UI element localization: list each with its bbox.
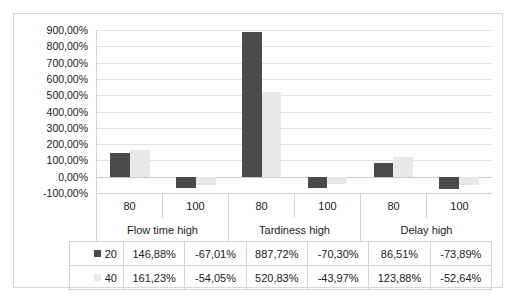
bar	[327, 177, 347, 184]
gridline	[97, 112, 492, 113]
table-row: 20 146,88% -67,01% 887,72% -70,30% 86,51…	[69, 242, 492, 266]
legend-label: 20	[105, 248, 117, 260]
bar	[110, 153, 130, 177]
category-label: 100	[295, 194, 361, 218]
category-subrow: 80 100 80 100 80 100	[96, 194, 492, 218]
category-grouprow: Flow time high Tardiness high Delay high	[96, 218, 492, 242]
gridline	[97, 46, 492, 47]
y-axis-tick: 300,00%	[14, 123, 88, 134]
table-cell: 161,23%	[124, 266, 185, 289]
y-axis-tick: 100,00%	[14, 155, 88, 166]
bar	[439, 177, 459, 189]
legend-label: 40	[105, 272, 117, 284]
bar	[130, 150, 150, 176]
bar	[308, 177, 328, 188]
plot-area	[96, 30, 492, 193]
bar	[459, 177, 479, 186]
y-axis-tick: 600,00%	[14, 74, 88, 85]
bar	[374, 163, 394, 177]
bar	[393, 157, 413, 177]
y-axis-tick: -100,00%	[14, 188, 88, 199]
bar	[262, 92, 282, 177]
y-axis-tick: 900,00%	[14, 25, 88, 36]
zero-line	[97, 177, 492, 178]
y-axis-tick: 500,00%	[14, 90, 88, 101]
y-axis: 900,00% 800,00% 700,00% 600,00% 500,00% …	[14, 27, 92, 195]
y-axis-tick: 700,00%	[14, 58, 88, 69]
table-cell: -70,30%	[308, 242, 369, 265]
gridline	[97, 160, 492, 161]
y-axis-tick: 200,00%	[14, 139, 88, 150]
gridline	[97, 128, 492, 129]
bar	[196, 177, 216, 186]
y-axis-tick: 800,00%	[14, 41, 88, 52]
table-cell: -73,89%	[431, 242, 492, 265]
category-label: 80	[96, 194, 163, 218]
table-cell: 887,72%	[247, 242, 308, 265]
data-table: 20 146,88% -67,01% 887,72% -70,30% 86,51…	[69, 241, 492, 290]
legend-swatch-icon	[94, 274, 101, 281]
legend-entry-20: 20	[69, 242, 124, 265]
table-cell: 520,83%	[247, 266, 308, 289]
table-cell: 123,88%	[369, 266, 430, 289]
category-label: 100	[427, 194, 492, 218]
table-cell: -54,05%	[185, 266, 246, 289]
gridline	[97, 79, 492, 80]
category-label: 100	[163, 194, 229, 218]
group-label: Tardiness high	[229, 218, 361, 242]
table-row: 40 161,23% -54,05% 520,83% -43,97% 123,8…	[69, 266, 492, 290]
chart-frame: 900,00% 800,00% 700,00% 600,00% 500,00% …	[13, 13, 503, 288]
bar	[176, 177, 196, 188]
group-label: Flow time high	[96, 218, 229, 242]
gridline	[97, 95, 492, 96]
gridline	[97, 30, 492, 31]
table-cell: 146,88%	[124, 242, 185, 265]
bar	[242, 32, 262, 177]
table-cell: 86,51%	[369, 242, 430, 265]
legend-entry-40: 40	[69, 266, 124, 289]
table-cell: -52,64%	[431, 266, 492, 289]
table-cell: -67,01%	[185, 242, 246, 265]
y-axis-tick: 400,00%	[14, 107, 88, 118]
category-axis: 80 100 80 100 80 100 Flow time high Tard…	[96, 193, 492, 241]
category-label: 80	[229, 194, 295, 218]
category-label: 80	[361, 194, 427, 218]
table-cell: -43,97%	[308, 266, 369, 289]
y-axis-tick: 0,00%	[14, 172, 88, 183]
gridline	[97, 63, 492, 64]
legend-swatch-icon	[94, 250, 101, 257]
group-label: Delay high	[361, 218, 492, 242]
gridline	[97, 144, 492, 145]
